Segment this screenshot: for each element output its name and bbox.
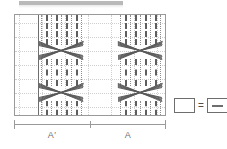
strand-line-light: [71, 59, 72, 86]
strand-line: [66, 101, 68, 115]
strand-line: [135, 101, 137, 115]
strand-line: [76, 101, 78, 115]
upper-right-crossing: [118, 43, 162, 57]
upper-left-crossing: [39, 43, 83, 57]
strand-line-light: [150, 15, 151, 45]
strand-line: [76, 15, 78, 45]
plot-inner: [15, 15, 165, 115]
strand-line-light: [120, 101, 121, 115]
strand-line: [145, 59, 147, 86]
strand-line-light: [41, 15, 42, 45]
strand-line-light: [140, 59, 141, 86]
strand-line: [135, 59, 137, 86]
strand-line-light: [130, 59, 131, 86]
legend: =: [174, 98, 227, 113]
box-with-dash-icon: [207, 98, 227, 113]
axis-label-a-prime: A′: [32, 130, 72, 140]
vertical-gridline: [19, 15, 20, 115]
strand-line: [145, 101, 147, 115]
strand-line: [125, 59, 127, 86]
strand-line: [125, 15, 127, 45]
strand-line: [46, 101, 48, 115]
strand-line-light: [150, 101, 151, 115]
vertical-gridline: [88, 15, 89, 115]
redacted-header-bar-fade: [19, 5, 123, 8]
strand-line-light: [61, 59, 62, 86]
strand-line-light: [41, 101, 42, 115]
diagram-plot-area: [14, 14, 166, 116]
strand-line: [76, 59, 78, 86]
axis-tick-center: [90, 121, 91, 128]
strand-line-light: [140, 15, 141, 45]
strand-line-light: [130, 15, 131, 45]
strand-line-light: [130, 101, 131, 115]
strand-line-light: [160, 59, 161, 86]
strand-line-light: [51, 15, 52, 45]
axis-label-a: A: [108, 130, 148, 140]
strand-line: [125, 101, 127, 115]
strand-line: [46, 59, 48, 86]
strand-line-light: [51, 59, 52, 86]
strand-line: [46, 15, 48, 45]
strand-line: [66, 59, 68, 86]
strand-line-light: [120, 59, 121, 86]
strand-line: [66, 15, 68, 45]
strand-line-light: [120, 15, 121, 45]
lower-right-crossing: [118, 85, 162, 99]
strand-line-light: [140, 101, 141, 115]
strand-line: [135, 15, 137, 45]
strand-line-light: [160, 101, 161, 115]
strand-line: [56, 15, 58, 45]
legend-equals-sign: =: [198, 101, 204, 111]
strand-line-light: [81, 59, 82, 86]
strand-line: [56, 101, 58, 115]
empty-box-icon: [174, 98, 195, 113]
strand-line-light: [61, 15, 62, 45]
strand-line: [155, 15, 157, 45]
strand-line: [155, 101, 157, 115]
strand-line-light: [71, 15, 72, 45]
strand-line-light: [61, 101, 62, 115]
strand-line-light: [71, 101, 72, 115]
lower-left-crossing: [39, 85, 83, 99]
strand-line: [56, 59, 58, 86]
strand-line: [145, 15, 147, 45]
strand-line-light: [150, 59, 151, 86]
strand-line-light: [81, 101, 82, 115]
strand-line-light: [41, 59, 42, 86]
axis-cap-right: [165, 120, 166, 129]
vertical-gridline: [111, 15, 112, 115]
axis-cap-left: [14, 120, 15, 129]
diagram-root: A′ A =: [0, 0, 227, 149]
dash-glyph: [212, 105, 223, 107]
strand-line-light: [51, 101, 52, 115]
strand-line: [155, 59, 157, 86]
